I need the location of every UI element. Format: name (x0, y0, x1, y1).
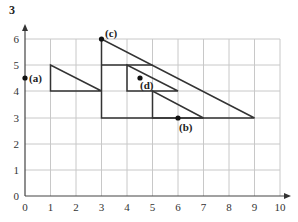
x-tick: 8 (226, 201, 232, 213)
x-tick: 3 (99, 201, 105, 213)
y-axis-arrow-icon (22, 24, 28, 31)
y-tick: 0 (14, 190, 20, 202)
point-a (22, 75, 27, 80)
y-tick: 4 (14, 85, 20, 97)
x-axis-arrow-icon (284, 193, 291, 199)
x-tick: 7 (201, 201, 207, 213)
point-c (99, 36, 104, 41)
label-a: (a) (29, 72, 42, 85)
y-tick: 6 (14, 33, 20, 45)
y-tick: 1 (14, 164, 20, 176)
x-tick-labels: 0 1 2 3 4 5 6 7 8 9 10 (22, 201, 286, 213)
x-tick: 4 (124, 201, 130, 213)
y-tick: 5 (14, 59, 20, 71)
label-d: (d) (140, 79, 154, 92)
x-tick: 2 (73, 201, 79, 213)
y-tick-labels: 0 1 2 3 4 5 6 (14, 33, 20, 202)
coordinate-diagram: 0 1 2 3 4 5 6 7 8 9 10 0 1 2 3 4 5 6 (a)… (0, 0, 298, 222)
x-tick: 1 (48, 201, 54, 213)
point-b (175, 115, 180, 120)
y-tick: 2 (14, 138, 20, 150)
x-tick: 0 (22, 201, 28, 213)
y-tick: 3 (14, 112, 20, 124)
label-b: (b) (179, 121, 193, 134)
x-tick: 10 (275, 201, 287, 213)
x-tick: 9 (252, 201, 258, 213)
axes (25, 28, 287, 196)
x-tick: 5 (150, 201, 156, 213)
x-tick: 6 (175, 201, 181, 213)
label-c: (c) (105, 27, 118, 40)
